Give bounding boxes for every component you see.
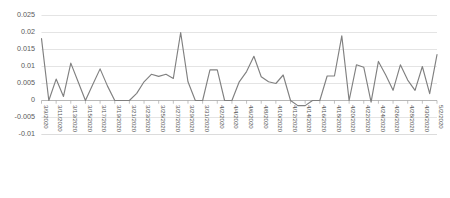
x-axis-tick-label: 4/26/2020: [394, 105, 401, 133]
x-axis-tick-label: 4/2/2020: [219, 105, 226, 129]
x-axis-tick-label: 3/15/2020: [87, 105, 94, 133]
y-axis-tick-label: 0.005: [17, 78, 35, 87]
x-axis-tick-label: 4/12/2020: [292, 105, 299, 133]
y-axis-tick-labels: 0.0250.020.0150.010.0050-0.005-0.01: [15, 10, 35, 138]
x-axis-tick-label: 3/21/2020: [131, 105, 138, 133]
x-axis-tick-label: 4/6/2020: [248, 105, 255, 129]
x-axis-tick-label: 4/4/2020: [233, 105, 240, 129]
y-axis-tick-label: 0.015: [17, 44, 35, 53]
x-axis-tick-label: 4/8/2020: [263, 105, 270, 129]
line-chart: 0.0250.020.0150.010.0050-0.005-0.01 3/9/…: [0, 0, 450, 198]
x-axis-tick-label: 4/10/2020: [277, 105, 284, 133]
x-axis-tick-label: 4/18/2020: [336, 105, 343, 133]
x-axis-tick-label: 3/23/2020: [145, 105, 152, 133]
x-axis-tick-label: 3/19/2020: [116, 105, 123, 133]
x-axis-tick-label: 3/25/2020: [160, 105, 167, 133]
y-axis-tick-label: 0: [31, 95, 35, 104]
x-axis-tick-label: 3/9/2020: [43, 105, 50, 129]
x-axis-tick-label: 5/2/2020: [438, 105, 445, 129]
x-axis-tick-labels: 3/9/20203/11/20203/13/20203/15/20203/17/…: [43, 105, 446, 133]
data-series-line: [42, 33, 438, 106]
x-axis-tick-label: 4/30/2020: [424, 105, 431, 133]
x-axis-tick-label: 3/17/2020: [101, 105, 108, 133]
chart-canvas: 0.0250.020.0150.010.0050-0.005-0.01 3/9/…: [0, 0, 450, 198]
x-axis-tick-label: 4/28/2020: [409, 105, 416, 133]
x-axis-tick-label: 3/27/2020: [175, 105, 182, 133]
y-axis-tick-label: -0.005: [15, 112, 35, 121]
x-axis-tick-label: 4/14/2020: [306, 105, 313, 133]
x-axis-tickmarks: [42, 101, 438, 104]
x-axis-tick-label: 3/11/2020: [57, 105, 64, 132]
x-axis-tick-label: 4/24/2020: [380, 105, 387, 133]
x-axis-tick-label: 4/20/2020: [350, 105, 357, 133]
x-axis-tick-label: 4/16/2020: [321, 105, 328, 133]
x-axis-tick-label: 4/22/2020: [365, 105, 372, 133]
x-axis-tick-label: 3/13/2020: [72, 105, 79, 133]
y-axis-tick-label: -0.01: [19, 129, 35, 138]
y-axis-tick-label: 0.02: [21, 27, 35, 36]
x-axis-tick-label: 3/29/2020: [189, 105, 196, 133]
x-axis-tick-label: 3/31/2020: [204, 105, 211, 133]
y-axis-tick-label: 0.01: [21, 61, 35, 70]
y-axis-tick-label: 0.025: [17, 10, 35, 19]
